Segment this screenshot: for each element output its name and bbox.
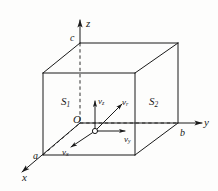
vector-vz-subscript: z [102, 100, 104, 106]
vector-label-v-resultant: vr [122, 98, 128, 108]
vector-vx-line [71, 131, 95, 147]
vector-vx-subscript: x [66, 151, 69, 157]
right-face-bottom-receding [135, 123, 178, 155]
vector-vy-subscript: y [128, 138, 131, 144]
top-edge-right-receding [135, 43, 178, 73]
surface-label-s1: S1 [61, 96, 70, 109]
physics-figure-3d-box: z y x c b a S1 S2 O vz vr vy vx [0, 0, 218, 191]
surface-s1-subscript: 1 [67, 101, 71, 109]
vector-label-vy: vy [124, 135, 131, 145]
origin-label: O [73, 114, 81, 125]
x-axis-line [22, 123, 80, 172]
vector-origin-point [92, 128, 97, 133]
vector-label-vx: vx [62, 148, 69, 158]
vector-label-vz: vz [98, 97, 104, 107]
x-axis-label: x [22, 172, 27, 183]
vector-v-resultant-line [95, 104, 122, 131]
surface-s2-subscript: 2 [155, 101, 159, 109]
corner-label-c: c [70, 33, 74, 43]
top-edge-left-receding [43, 43, 80, 73]
figure-canvas [0, 0, 218, 191]
surface-label-s2: S2 [149, 96, 158, 109]
y-axis-label: y [204, 117, 209, 128]
corner-label-a: a [33, 151, 38, 161]
z-axis-label: z [86, 18, 90, 29]
corner-label-b: b [180, 128, 185, 138]
vector-v-subscript: r [126, 101, 128, 107]
